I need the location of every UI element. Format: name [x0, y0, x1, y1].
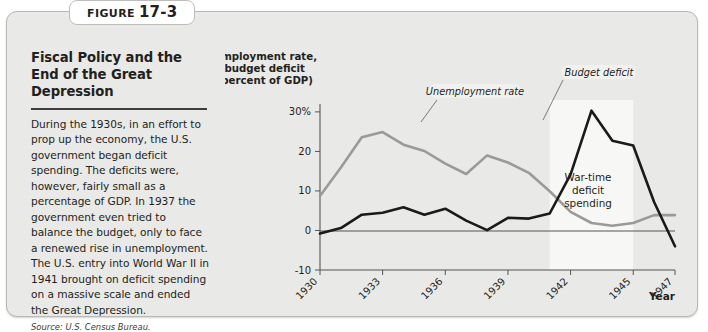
y-axis-title-line-1: Unemployment rate,	[225, 51, 317, 62]
x-tick-label: 1933	[356, 276, 382, 302]
y-axis-title-line-3: (percent of GDP)	[225, 75, 313, 86]
figure-body-text: During the 1930s, in an effort to prop u…	[31, 117, 209, 319]
caption-divider	[31, 108, 207, 110]
figure-number: 17-3	[139, 3, 177, 21]
figure-label-word: Figure	[87, 7, 135, 20]
wartime-band-label-line-3: spending	[564, 197, 612, 209]
unemployment-callout-label: Unemployment rate	[426, 86, 524, 97]
x-tick-label: 1930	[294, 276, 320, 302]
x-tick-label: 1939	[482, 276, 508, 302]
figure-title: Fiscal Policy and the End of the Great D…	[31, 50, 209, 101]
x-axis-tick-labels: 1930193319361939194219451947	[294, 276, 675, 302]
x-tick-label: 1936	[419, 276, 445, 302]
wartime-band-label-line-2: deficit	[572, 184, 604, 196]
y-axis-ticks: 30%20100-10	[289, 106, 320, 275]
x-tick-label: 1942	[544, 276, 570, 302]
x-axis-title: Year	[648, 290, 676, 302]
x-tick-label: 1945	[607, 276, 633, 302]
y-tick-label: -10	[295, 265, 311, 276]
y-tick-label: 20	[298, 146, 311, 157]
figure-source: Source: U.S. Census Bureau.	[31, 322, 209, 332]
figure-card: Figure17-3 Fiscal Policy and the End of …	[6, 11, 698, 317]
unemployment-callout-leader	[421, 100, 437, 122]
y-tick-label: 30%	[289, 106, 311, 117]
x-axis-ticks	[320, 270, 675, 275]
budget-deficit-callout-label: Budget deficit	[565, 67, 635, 78]
line-chart: 30%20100-10 1930193319361939194219451947…	[225, 42, 687, 304]
wartime-band-label-line-1: War-time	[565, 171, 612, 183]
caption-panel: Fiscal Policy and the End of the Great D…	[31, 50, 209, 332]
y-tick-label: 10	[298, 185, 311, 196]
y-tick-label: 0	[305, 225, 311, 236]
chart-area: 30%20100-10 1930193319361939194219451947…	[225, 42, 687, 304]
figure-number-tab: Figure17-3	[69, 0, 195, 25]
y-axis-title-line-2: budget deficit	[225, 63, 305, 74]
